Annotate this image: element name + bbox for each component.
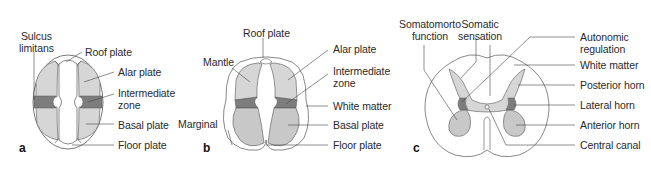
label-marginal: Marginal [178,118,217,130]
label-roof-plate-b: Roof plate [243,27,290,39]
label-somatic-sensation: Somatic sensation [458,18,502,42]
label-white-matter-c: White matter [580,59,638,71]
label-intermediate-zone-b-line1: Intermediate [333,65,390,77]
label-lateral-horn: Lateral horn [580,99,635,111]
label-white-matter-b: White matter [333,100,391,112]
panel-letter-b: b [203,141,210,155]
label-autonomic-regulation: Autonomic regulation [580,31,629,55]
panel-letter-a: a [19,141,26,155]
label-intermediate-zone-b-line2: zone [333,77,390,89]
label-somatic-sensation-line2: sensation [458,30,502,42]
label-somatomotor-function: Somatomorto function [399,18,461,42]
diagram-canvas [0,0,651,173]
label-sulcus-limitans-line1: Sulcus [19,30,54,42]
label-basal-plate-b: Basal plate [333,119,384,131]
label-basal-plate-a: Basal plate [118,119,169,131]
label-somatomotor-function-line1: Somatomorto [399,18,461,30]
label-floor-plate-a: Floor plate [118,139,167,151]
label-central-canal: Central canal [580,139,641,151]
label-intermediate-zone-a: Intermediate zone [118,87,175,111]
label-floor-plate-b: Floor plate [333,139,382,151]
label-autonomic-regulation-line2: regulation [580,43,629,55]
label-somatomotor-function-line2: function [399,30,461,42]
label-anterior-horn: Anterior horn [580,119,639,131]
label-sulcus-limitans-line2: limitans [19,42,54,54]
label-intermediate-zone-b: Intermediate zone [333,65,390,89]
panel-a-illustration [33,52,114,149]
label-intermediate-zone-a-line2: zone [118,99,175,111]
panel-b-illustration [223,38,328,150]
label-mantle: Mantle [203,56,234,68]
label-posterior-horn: Posterior horn [580,79,645,91]
label-intermediate-zone-a-line1: Intermediate [118,87,175,99]
label-autonomic-regulation-line1: Autonomic [580,31,629,43]
panel-c-illustration [424,37,575,157]
label-alar-plate-b: Alar plate [333,43,376,55]
label-roof-plate-a: Roof plate [85,46,132,58]
label-sulcus-limitans: Sulcus limitans [19,30,54,54]
label-somatic-sensation-line1: Somatic [458,18,502,30]
label-alar-plate-a: Alar plate [118,66,161,78]
panel-letter-c: c [413,141,420,155]
